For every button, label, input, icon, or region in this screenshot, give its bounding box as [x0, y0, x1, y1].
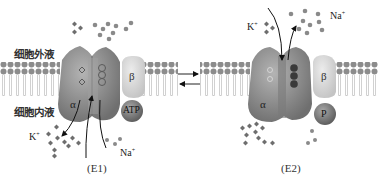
e1-k-ion-label: K+: [29, 131, 40, 142]
extracellular-label: 细胞外液: [14, 46, 54, 61]
ions-e1-outside: [72, 21, 133, 42]
ions-e2-outside: [264, 9, 324, 36]
e2-p-label: P: [321, 108, 327, 119]
e1-beta-label: β: [129, 70, 135, 82]
intracellular-label: 细胞内液: [14, 104, 54, 119]
pump-diagram: [0, 0, 378, 183]
e1-atp-label: ATP: [123, 105, 140, 115]
ions-e2-inside: [240, 122, 317, 146]
equilibrium-arrows: [178, 74, 200, 84]
e2-caption: (E2): [281, 162, 301, 174]
e2-beta-label: β: [321, 70, 327, 82]
e1-caption: (E1): [87, 162, 107, 174]
ions-e1-inside: [46, 125, 122, 159]
e1-alpha-label: α: [70, 98, 76, 110]
e2-alpha-label: α: [260, 98, 266, 110]
e2-k-ion-label: K+: [247, 21, 258, 32]
e1-na-ion-label: Na+: [120, 147, 135, 158]
e2-na-ion-label: Na+: [330, 10, 345, 21]
